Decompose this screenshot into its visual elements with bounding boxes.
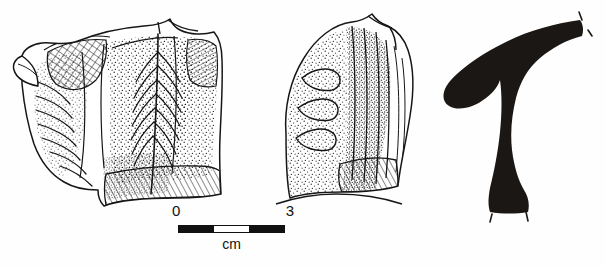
figure-section-profile: [432, 8, 602, 226]
scale-unit-label: cm: [170, 236, 293, 252]
scale-segment-1: [179, 226, 214, 232]
scale-bar: [178, 225, 285, 233]
section-silhouette: [443, 20, 583, 214]
illustration-plate: 0 3 cm: [0, 0, 606, 266]
scale-end-label: 3: [286, 203, 294, 218]
right-hatch-panel: [187, 39, 218, 87]
side-basal-hatch: [339, 158, 398, 192]
scale-bar-group: 0 3 cm: [170, 200, 294, 260]
scale-segment-2: [214, 226, 249, 232]
scale-start-label: 0: [172, 203, 180, 218]
figure-front-view: [8, 8, 248, 220]
scale-segment-3: [249, 226, 284, 232]
figure-side-view: [268, 8, 434, 222]
